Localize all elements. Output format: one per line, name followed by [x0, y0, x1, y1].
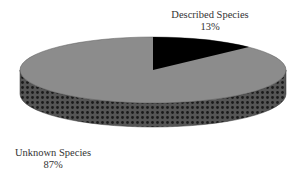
- label-unknown-name: Unknown Species: [8, 147, 98, 159]
- label-described-pct: 13%: [160, 21, 260, 33]
- label-unknown-pct: 87%: [8, 159, 98, 171]
- label-described-species: Described Species 13%: [160, 9, 260, 33]
- label-described-name: Described Species: [160, 9, 260, 21]
- label-unknown-species: Unknown Species 87%: [8, 147, 98, 171]
